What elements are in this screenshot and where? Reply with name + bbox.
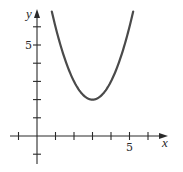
y-axis-label: y (24, 6, 32, 21)
axis-labels: x y 55 (24, 6, 168, 154)
axis-ticks (19, 27, 149, 154)
axes (10, 9, 168, 164)
x-tick-label: 5 (126, 141, 133, 154)
y-axis-arrow-icon (34, 9, 40, 18)
parabola-curve (52, 12, 133, 100)
y-tick-label: 5 (25, 39, 32, 52)
parabola-chart: x y 55 (0, 0, 183, 172)
x-axis-label: x (161, 135, 168, 150)
